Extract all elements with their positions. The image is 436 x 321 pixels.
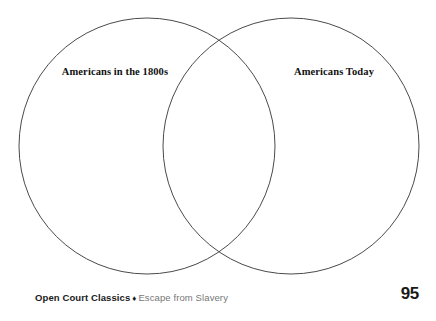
venn-diagram-svg <box>0 0 436 280</box>
venn-circle-right[interactable] <box>163 18 419 274</box>
venn-diagram: Americans in the 1800s Americans Today <box>0 0 436 280</box>
page-footer: Open Court Classics♦Escape from Slavery … <box>0 283 436 321</box>
venn-circle-left[interactable] <box>19 18 275 274</box>
footer-credit-line: Open Court Classics♦Escape from Slavery <box>35 291 228 305</box>
footer-series-name: Open Court Classics <box>35 292 130 303</box>
venn-label-left: Americans in the 1800s <box>56 66 174 77</box>
footer-book-title: Escape from Slavery <box>138 292 228 303</box>
worksheet-page: Americans in the 1800s Americans Today O… <box>0 0 436 321</box>
page-number: 95 <box>401 284 419 304</box>
venn-label-right: Americans Today <box>275 66 393 77</box>
